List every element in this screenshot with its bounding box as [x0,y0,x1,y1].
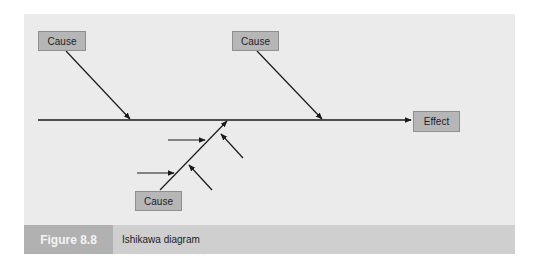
cause-2-bone [257,51,322,119]
cause-box-1-label: Cause [48,36,77,47]
cause-box-3-label: Cause [144,196,173,207]
cause-1-bone [66,51,130,119]
cause-box-2-label: Cause [241,36,270,47]
cause-box-2: Cause [232,31,279,51]
cause-3-bone [160,121,227,190]
cause-box-1: Cause [38,31,86,51]
sub-cause-arrow [189,165,212,190]
effect-box: Effect [413,111,460,132]
cause-box-3: Cause [135,191,182,211]
sub-cause-arrow [221,134,243,158]
figure-title: Ishikawa diagram [122,225,200,254]
figure-number: Figure 8.8 [24,225,113,254]
effect-box-label: Effect [424,116,449,127]
figure-caption: Figure 8.8 Ishikawa diagram [24,225,515,254]
